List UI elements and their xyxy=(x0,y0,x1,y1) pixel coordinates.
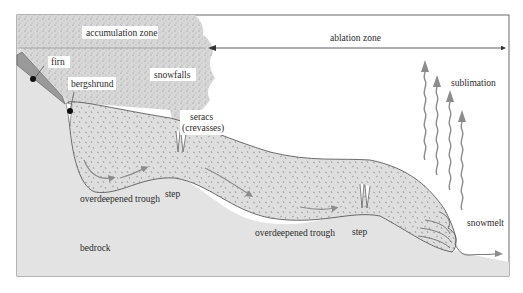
snowmelt-label: snowmelt xyxy=(467,218,504,228)
accumulation-zone-label: accumulation zone xyxy=(86,28,157,38)
step-label-1: step xyxy=(165,189,181,199)
seracs-label: seracs xyxy=(190,112,214,122)
glacier-diagram: accumulation zone ablation zone firn ber… xyxy=(0,0,523,293)
crevasses-label: (crevasses) xyxy=(182,123,224,134)
snowfalls-label: snowfalls xyxy=(154,70,191,80)
sublimation-label: sublimation xyxy=(451,78,496,88)
bergshrund-label: bergshrund xyxy=(71,79,114,89)
step-label-2: step xyxy=(352,227,368,237)
firn-label: firn xyxy=(51,57,65,67)
firn-dot xyxy=(30,76,36,82)
bergshrund-dot xyxy=(67,108,73,114)
ablation-zone-label: ablation zone xyxy=(330,33,381,43)
bedrock-label: bedrock xyxy=(80,243,111,253)
overdeepened-trough-label-1: overdeepened trough xyxy=(80,194,160,204)
overdeepened-trough-label-2: overdeepened trough xyxy=(255,228,335,238)
